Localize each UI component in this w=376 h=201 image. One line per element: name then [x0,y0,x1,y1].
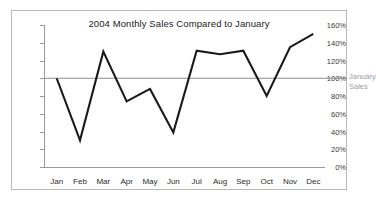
series-plot [12,11,348,191]
reference-line-label: January Sales [349,72,376,92]
sales-line [57,34,314,141]
reference-line-label-line2: Sales [349,82,376,92]
reference-line-label-line1: January [349,72,376,82]
chart-frame: 2004 Monthly Sales Compared to January 0… [11,10,347,190]
